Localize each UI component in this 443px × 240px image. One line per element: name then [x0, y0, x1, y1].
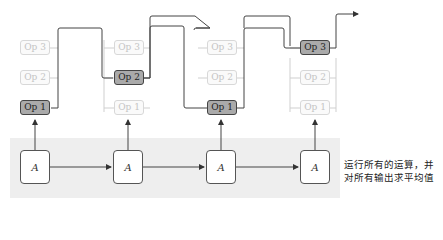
- op2-box: Op 2: [114, 70, 144, 85]
- op1-box: Op 1: [207, 100, 237, 115]
- cell-a: A: [300, 150, 330, 184]
- op3-box: Op 3: [114, 40, 144, 55]
- op3-box: Op 3: [207, 40, 237, 55]
- op1-box: Op 1: [114, 100, 144, 115]
- op1-box: Op 1: [20, 100, 50, 115]
- cell-a: A: [206, 150, 236, 184]
- cell-a: A: [20, 150, 50, 184]
- op2-box: Op 2: [300, 70, 330, 85]
- cell-a: A: [113, 150, 143, 184]
- op3-box: Op 3: [300, 40, 330, 55]
- op2-box: Op 2: [20, 70, 50, 85]
- caption: 运行所有的运算，并 对所有输出求平均值: [344, 158, 434, 184]
- op1-box: Op 1: [300, 100, 330, 115]
- caption-line-2: 对所有输出求平均值: [344, 171, 434, 184]
- caption-line-1: 运行所有的运算，并: [344, 158, 434, 171]
- op2-box: Op 2: [207, 70, 237, 85]
- op3-box: Op 3: [20, 40, 50, 55]
